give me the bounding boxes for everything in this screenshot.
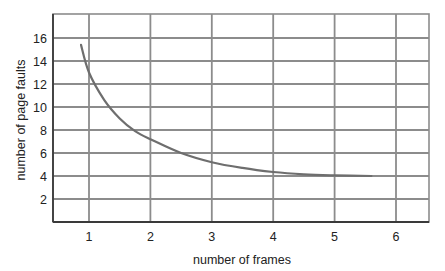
x-tick-4: 4 bbox=[270, 230, 277, 244]
vertical-gridlines bbox=[89, 14, 396, 222]
x-tick-2: 2 bbox=[147, 230, 154, 244]
horizontal-gridlines bbox=[53, 38, 429, 199]
page-faults-curve bbox=[81, 45, 371, 176]
y-tick-16: 16 bbox=[33, 32, 47, 46]
page-faults-chart: 123456 246810121416 number of frames num… bbox=[0, 0, 445, 271]
y-tick-4: 4 bbox=[40, 170, 47, 184]
y-tick-2: 2 bbox=[40, 193, 47, 207]
x-tick-labels: 123456 bbox=[86, 230, 400, 244]
x-tick-1: 1 bbox=[86, 230, 93, 244]
y-tick-labels: 246810121416 bbox=[33, 32, 47, 207]
y-tick-10: 10 bbox=[33, 101, 47, 115]
y-tick-8: 8 bbox=[40, 124, 47, 138]
x-tick-6: 6 bbox=[393, 230, 400, 244]
y-tick-6: 6 bbox=[40, 147, 47, 161]
x-axis-label: number of frames bbox=[193, 253, 291, 267]
y-axis-label: number of page faults bbox=[14, 60, 28, 181]
x-tick-5: 5 bbox=[331, 230, 338, 244]
y-tick-14: 14 bbox=[33, 55, 47, 69]
x-tick-3: 3 bbox=[208, 230, 215, 244]
y-tick-12: 12 bbox=[33, 78, 47, 92]
plot-frame bbox=[53, 14, 429, 222]
